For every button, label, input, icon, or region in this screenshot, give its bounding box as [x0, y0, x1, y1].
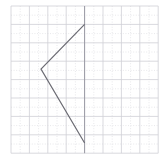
figure-canvas [0, 0, 162, 165]
plot-svg [0, 0, 162, 165]
